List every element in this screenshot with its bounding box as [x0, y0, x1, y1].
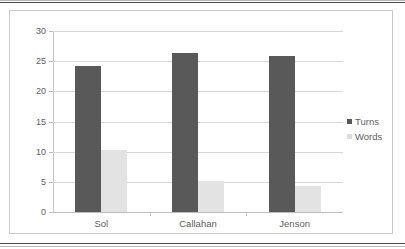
x-axis-tick-2 [246, 212, 247, 216]
x-axis-label-jenson: Jenson [246, 218, 343, 230]
y-tick-label-15: 15 [12, 117, 46, 127]
y-tick-label-25: 25 [12, 56, 46, 66]
x-axis-label-callahan: Callahan [150, 218, 247, 230]
legend-swatch-icon-turns [347, 119, 352, 124]
bar-turns-sol [75, 66, 101, 212]
y-tick-label-5: 5 [12, 177, 46, 187]
y-tick-mark-10 [49, 152, 53, 153]
gridline-0 [53, 212, 343, 213]
y-tick-mark-15 [49, 122, 53, 123]
y-tick-mark-20 [49, 91, 53, 92]
bar-turns-callahan [172, 53, 198, 212]
legend-label-turns: Turns [355, 116, 379, 127]
y-tick-mark-30 [49, 31, 53, 32]
bar-words-jenson [295, 186, 321, 212]
x-axis-tick-1 [150, 212, 151, 216]
y-tick-label-30: 30 [12, 26, 46, 36]
legend-item-turns[interactable]: Turns [347, 114, 397, 129]
chart-container: 051015202530 TurnsWords SolCallahanJenso… [9, 10, 393, 234]
page-bottom-rule [0, 243, 405, 244]
y-tick-mark-5 [49, 182, 53, 183]
bar-turns-jenson [269, 56, 295, 212]
page-bottom-hairline [0, 246, 405, 247]
y-tick-label-10: 10 [12, 147, 46, 157]
x-axis-label-sol: Sol [53, 218, 150, 230]
legend-item-words[interactable]: Words [347, 129, 397, 144]
gridline-25 [53, 61, 343, 62]
page-top-rule [0, 2, 405, 3]
y-tick-label-0: 0 [12, 207, 46, 217]
gridline-30 [53, 31, 343, 32]
chart-legend: TurnsWords [347, 114, 397, 144]
bar-words-sol [101, 150, 127, 212]
bar-words-callahan [198, 181, 224, 212]
y-tick-mark-25 [49, 61, 53, 62]
legend-swatch-icon-words [347, 134, 352, 139]
page-top-hairline [0, 0, 405, 1]
y-tick-label-20: 20 [12, 86, 46, 96]
chart-page: 051015202530 TurnsWords SolCallahanJenso… [0, 0, 405, 249]
legend-label-words: Words [355, 131, 382, 142]
plot-area [53, 31, 343, 212]
y-axis-labels: 051015202530 [10, 11, 46, 235]
y-tick-mark-0 [49, 212, 53, 213]
